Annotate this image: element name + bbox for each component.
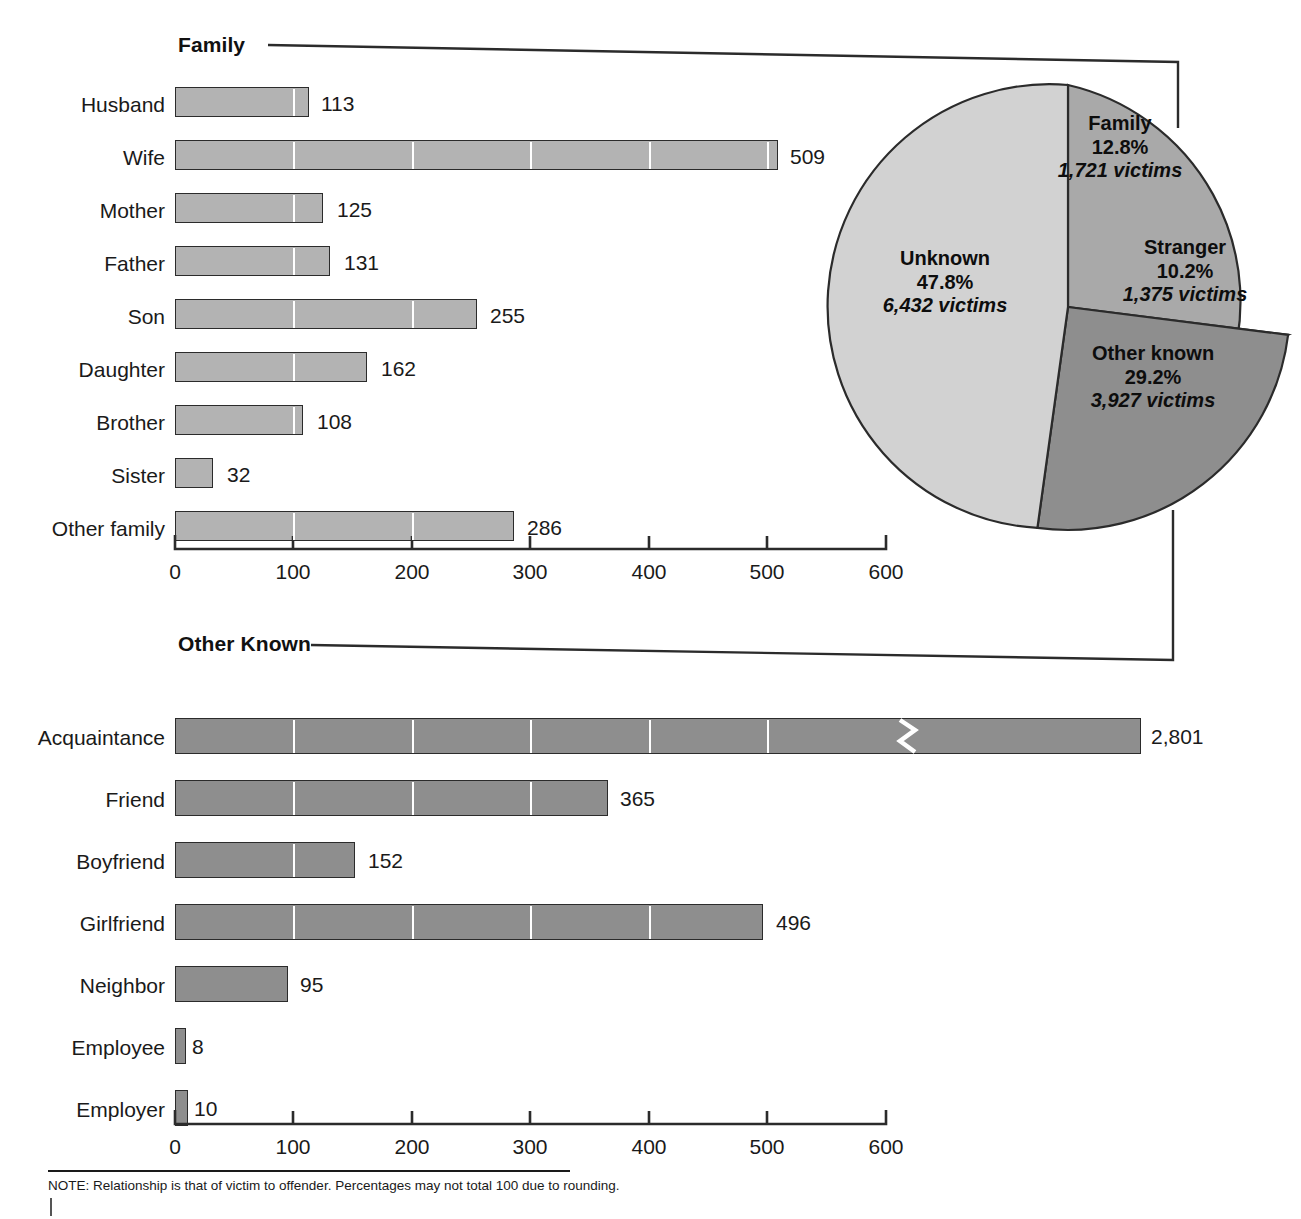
bar-gridline xyxy=(649,142,651,169)
x-tick-family-100: 100 xyxy=(263,561,323,582)
bar-value-other-family: 286 xyxy=(527,517,562,538)
bar-gridline xyxy=(412,142,414,169)
bar-neighbor xyxy=(175,966,288,1002)
bar-value-sister: 32 xyxy=(227,464,250,485)
bar-value-employer: 10 xyxy=(194,1098,217,1119)
x-tick-other-400: 400 xyxy=(619,1136,679,1157)
pie-label-unknown: Unknown 47.8% 6,432 victims xyxy=(850,247,1040,318)
bar-gridline xyxy=(293,513,295,540)
bar-value-neighbor: 95 xyxy=(300,974,323,995)
bar-gridline xyxy=(293,720,295,753)
bar-acquaintance xyxy=(175,718,1141,754)
pie-label-family-percent: 12.8% xyxy=(1020,136,1220,160)
bar-other-family xyxy=(175,511,514,541)
x-tick-other-300: 300 xyxy=(500,1136,560,1157)
bar-gridline xyxy=(293,407,295,434)
pie-label-family: Family 12.8% 1,721 victims xyxy=(1020,112,1220,183)
pie-label-unknown-victims: 6,432 victims xyxy=(850,294,1040,318)
bar-gridline xyxy=(293,142,295,169)
bar-value-brother: 108 xyxy=(317,411,352,432)
bar-wife xyxy=(175,140,778,170)
x-tick-family-500: 500 xyxy=(737,561,797,582)
bar-gridline xyxy=(293,354,295,381)
bar-value-friend: 365 xyxy=(620,788,655,809)
bar-label-sister: Sister xyxy=(0,465,165,486)
bar-gridline xyxy=(293,906,295,939)
bar-gridline xyxy=(293,89,295,116)
pie-label-unknown-percent: 47.8% xyxy=(850,271,1040,295)
bar-value-girlfriend: 496 xyxy=(776,912,811,933)
pie-label-stranger-percent: 10.2% xyxy=(1085,260,1285,284)
bar-label-husband: Husband xyxy=(0,94,165,115)
x-tick-family-600: 600 xyxy=(856,561,916,582)
bar-gridline xyxy=(293,782,295,815)
bar-gridline xyxy=(530,720,532,753)
bar-gridline xyxy=(412,720,414,753)
bar-father xyxy=(175,246,330,276)
bar-son xyxy=(175,299,477,329)
pie-label-stranger-name: Stranger xyxy=(1085,236,1285,260)
bar-gridline xyxy=(530,906,532,939)
x-tick-other-500: 500 xyxy=(737,1136,797,1157)
bar-label-brother: Brother xyxy=(0,412,165,433)
figure-note: NOTE: Relationship is that of victim to … xyxy=(48,1178,620,1193)
x-tick-family-300: 300 xyxy=(500,561,560,582)
bar-label-son: Son xyxy=(0,306,165,327)
bar-label-girlfriend: Girlfriend xyxy=(0,913,165,934)
pie-label-family-name: Family xyxy=(1020,112,1220,136)
bar-value-wife: 509 xyxy=(790,146,825,167)
bar-gridline xyxy=(412,301,414,328)
pie-label-stranger-victims: 1,375 victims xyxy=(1085,283,1285,307)
x-tick-other-100: 100 xyxy=(263,1136,323,1157)
bar-label-daughter: Daughter xyxy=(0,359,165,380)
bar-gridline xyxy=(293,301,295,328)
bar-brother xyxy=(175,405,303,435)
x-tick-family-200: 200 xyxy=(382,561,442,582)
bar-label-neighbor: Neighbor xyxy=(0,975,165,996)
pie-label-other-known-name: Other known xyxy=(1048,342,1258,366)
x-tick-family-0: 0 xyxy=(145,561,205,582)
bar-value-mother: 125 xyxy=(337,199,372,220)
relationship-of-victim-to-offender-figure: Family Husband 113 Wife 509 Mother 125 F… xyxy=(0,0,1301,1219)
bar-employee xyxy=(175,1028,186,1064)
bar-gridline xyxy=(412,782,414,815)
bar-value-husband: 113 xyxy=(321,93,354,114)
bar-gridline xyxy=(649,720,651,753)
bar-value-acquaintance: 2,801 xyxy=(1151,726,1204,747)
bar-label-father: Father xyxy=(0,253,165,274)
bar-label-acquaintance: Acquaintance xyxy=(0,727,165,748)
bar-value-daughter: 162 xyxy=(381,358,416,379)
bar-label-friend: Friend xyxy=(0,789,165,810)
bar-gridline xyxy=(767,720,769,753)
bar-employer xyxy=(175,1090,188,1126)
bar-sister xyxy=(175,458,213,488)
note-divider xyxy=(48,1170,570,1172)
bar-gridline xyxy=(767,142,769,169)
bar-gridline xyxy=(412,906,414,939)
bar-label-wife: Wife xyxy=(0,147,165,168)
pie-label-other-known: Other known 29.2% 3,927 victims xyxy=(1048,342,1258,413)
bar-gridline xyxy=(293,844,295,877)
pie-label-stranger: Stranger 10.2% 1,375 victims xyxy=(1085,236,1285,307)
bar-friend xyxy=(175,780,608,816)
bar-girlfriend xyxy=(175,904,763,940)
bar-boyfriend xyxy=(175,842,355,878)
bar-gridline xyxy=(293,195,295,222)
bar-label-boyfriend: Boyfriend xyxy=(0,851,165,872)
bar-gridline xyxy=(293,248,295,275)
pie-label-family-victims: 1,721 victims xyxy=(1020,159,1220,183)
bar-label-employee: Employee xyxy=(0,1037,165,1058)
bar-value-father: 131 xyxy=(344,252,379,273)
pie-slice-other-known xyxy=(1037,307,1288,530)
bar-label-mother: Mother xyxy=(0,200,165,221)
bar-daughter xyxy=(175,352,367,382)
page-corner-mark xyxy=(50,1198,52,1216)
bar-gridline xyxy=(530,782,532,815)
bar-value-boyfriend: 152 xyxy=(368,850,403,871)
x-tick-other-200: 200 xyxy=(382,1136,442,1157)
section-title-other-known: Other Known xyxy=(178,632,311,656)
bar-label-employer: Employer xyxy=(0,1099,165,1120)
bar-value-son: 255 xyxy=(490,305,525,326)
bar-value-employee: 8 xyxy=(192,1036,204,1057)
bar-mother xyxy=(175,193,323,223)
